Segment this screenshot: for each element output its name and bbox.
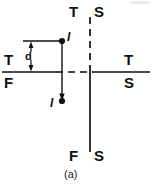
source-lower-point-marker — [59, 98, 65, 104]
figure-caption: (a) — [64, 169, 77, 180]
region-label-top-right: S — [94, 4, 104, 19]
region-label-left-upper: T — [4, 52, 13, 67]
depth-dimension-label: d — [25, 51, 32, 62]
region-label-bottom-left: F — [69, 148, 78, 163]
region-label-left-lower: F — [4, 75, 13, 90]
depth-dimension-up-arrowhead-icon — [29, 42, 34, 49]
region-label-right-lower: S — [124, 75, 134, 90]
region-label-right-upper: T — [124, 52, 133, 67]
source-upper-point-marker — [59, 38, 65, 44]
source-lower-label: I — [50, 97, 53, 109]
depth-dimension-down-arrowhead-icon — [29, 65, 34, 72]
region-label-top-left: T — [69, 4, 78, 19]
source-upper-label: I — [67, 31, 70, 43]
figure-container: T S T F T S F S d I I (a) — [0, 0, 152, 184]
scan-artifact — [131, 1, 149, 4]
region-label-bottom-right: S — [94, 148, 104, 163]
